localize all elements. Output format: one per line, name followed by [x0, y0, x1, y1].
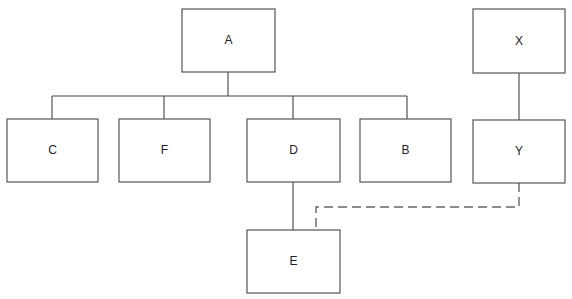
- hierarchy-diagram: A C F D B X Y E: [0, 0, 572, 299]
- node-a[interactable]: A: [182, 9, 275, 72]
- node-f[interactable]: F: [119, 119, 210, 182]
- node-d[interactable]: D: [247, 119, 340, 182]
- node-a-label: A: [224, 33, 232, 47]
- node-b-label: B: [401, 143, 409, 157]
- node-c-label: C: [48, 143, 57, 157]
- node-x[interactable]: X: [473, 9, 565, 73]
- node-e[interactable]: E: [247, 230, 340, 293]
- node-y[interactable]: Y: [473, 120, 565, 183]
- node-y-label: Y: [515, 144, 523, 158]
- node-c[interactable]: C: [7, 119, 98, 182]
- node-f-label: F: [161, 143, 168, 157]
- node-e-label: E: [289, 254, 297, 268]
- node-b[interactable]: B: [360, 119, 451, 182]
- edge-y-e-dashed: [316, 183, 519, 230]
- node-d-label: D: [289, 143, 298, 157]
- node-x-label: X: [515, 34, 523, 48]
